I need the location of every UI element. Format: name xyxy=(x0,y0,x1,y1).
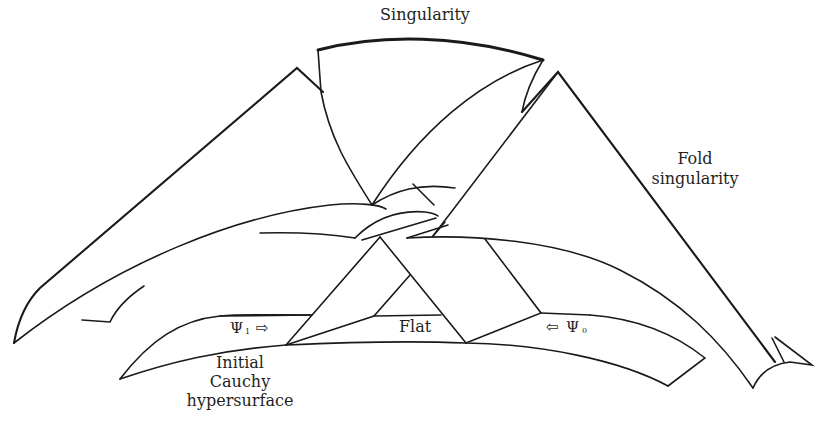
diagram-lines xyxy=(0,0,826,421)
arrow-right-icon: ⇨ xyxy=(256,319,269,337)
arrow-left-icon: ⇦ xyxy=(546,318,559,336)
incoming-wave-right: ⇦ Ψ 0 xyxy=(546,318,606,338)
incoming-wave-left: Ψ 1 ⇨ xyxy=(230,319,290,339)
left-fold-sheet xyxy=(14,68,386,343)
singularity-label: Singularity xyxy=(375,6,475,24)
psi-subscript-left: 1 xyxy=(245,327,250,336)
initial-cauchy-label-line1: Initial xyxy=(190,354,290,372)
psi-subscript-right: 0 xyxy=(582,326,587,335)
psi-symbol-left: Ψ xyxy=(230,319,243,337)
flat-region-label: Flat xyxy=(385,318,445,336)
fold-singularity-label-line2: singularity xyxy=(650,170,740,188)
initial-cauchy-label-line3: hypersurface xyxy=(180,392,300,410)
fold-singularity-label-line1: Fold xyxy=(650,150,740,168)
right-fold-sheet xyxy=(407,72,812,388)
singularity-sheet xyxy=(318,39,543,205)
psi-symbol-right: Ψ xyxy=(566,318,579,336)
spacetime-singularity-diagram: Singularity Fold singularity Flat Initia… xyxy=(0,0,826,421)
initial-cauchy-label-line2: Cauchy xyxy=(190,373,290,391)
